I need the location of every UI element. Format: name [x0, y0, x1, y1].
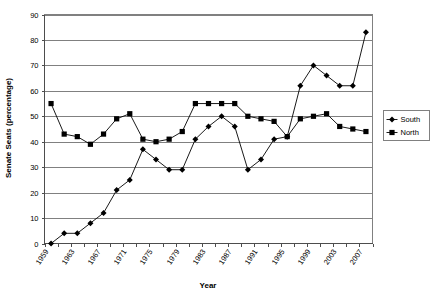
- y-tick-label-80: 80: [30, 36, 38, 45]
- data-series: [48, 29, 369, 246]
- x-tick-label-1995: 1995: [270, 247, 287, 266]
- data-point-north-1964: [75, 134, 80, 139]
- data-point-north-2008: [363, 129, 368, 134]
- y-tick-label-10: 10: [30, 214, 38, 223]
- x-tick-label-1979: 1979: [165, 247, 182, 266]
- data-point-north-1984: [206, 101, 211, 106]
- y-tick-label-90: 90: [30, 11, 38, 20]
- x-tick-label-2003: 2003: [322, 247, 339, 266]
- data-point-south-1994: [271, 136, 277, 142]
- y-tick-label-0: 0: [34, 240, 38, 249]
- y-tick-label-40: 40: [30, 138, 38, 147]
- x-tick-label-1999: 1999: [296, 247, 313, 266]
- senate-seats-line-chart: 0102030405060708090 19591963196719711975…: [0, 0, 432, 297]
- data-point-north-1982: [193, 101, 198, 106]
- data-point-north-1992: [258, 116, 263, 121]
- data-point-north-1998: [298, 116, 303, 121]
- x-tick-label-1959: 1959: [34, 247, 51, 266]
- data-point-north-1962: [62, 131, 67, 136]
- x-tick-label-2007: 2007: [348, 247, 365, 266]
- data-point-north-1990: [245, 114, 250, 119]
- y-tick-label-20: 20: [30, 189, 38, 198]
- data-point-north-1994: [272, 119, 277, 124]
- data-point-north-1988: [232, 101, 237, 106]
- data-point-south-2008: [363, 29, 369, 35]
- series-south: [48, 29, 369, 246]
- data-point-north-2004: [337, 124, 342, 129]
- y-tick-label-60: 60: [30, 87, 38, 96]
- data-point-north-1966: [88, 142, 93, 147]
- data-point-north-1960: [48, 101, 53, 106]
- data-point-north-1978: [167, 137, 172, 142]
- x-tick-label-1963: 1963: [60, 247, 77, 266]
- chart-canvas: 0102030405060708090 19591963196719711975…: [0, 0, 432, 297]
- data-point-north-2002: [324, 111, 329, 116]
- data-point-north-1986: [219, 101, 224, 106]
- x-axis-title: Year: [200, 281, 217, 290]
- gridlines: [45, 16, 373, 219]
- x-tick-label-1975: 1975: [138, 247, 155, 266]
- data-point-north-1996: [285, 134, 290, 139]
- data-point-north-1976: [153, 139, 158, 144]
- legend-label-north[interactable]: North: [401, 128, 419, 137]
- data-point-south-2006: [350, 83, 356, 89]
- x-tick-label-1987: 1987: [217, 247, 234, 266]
- data-point-north-1968: [101, 131, 106, 136]
- data-point-north-1970: [114, 116, 119, 121]
- x-tick-label-1991: 1991: [243, 247, 260, 266]
- data-point-south-1998: [297, 83, 303, 89]
- data-point-north-1974: [140, 137, 145, 142]
- y-axis-tick-labels: 0102030405060708090: [30, 11, 38, 249]
- x-axis-tick-labels: 1959196319671971197519791983198719911995…: [34, 247, 365, 266]
- legend-label-south[interactable]: South: [401, 115, 421, 124]
- x-tick-label-1971: 1971: [112, 247, 129, 266]
- data-point-north-2006: [350, 126, 355, 131]
- y-axis-title: Senate Seats (percentage): [4, 78, 13, 178]
- x-tick-label-1967: 1967: [86, 247, 103, 266]
- chart-legend[interactable]: SouthNorth: [384, 111, 430, 141]
- y-tick-label-70: 70: [30, 61, 38, 70]
- x-tick-label-1983: 1983: [191, 247, 208, 266]
- data-point-north-1980: [180, 129, 185, 134]
- data-point-north-1972: [127, 111, 132, 116]
- y-tick-label-50: 50: [30, 112, 38, 121]
- y-tick-label-30: 30: [30, 163, 38, 172]
- legend-marker-north-icon: [389, 130, 394, 135]
- data-point-north-2000: [311, 114, 316, 119]
